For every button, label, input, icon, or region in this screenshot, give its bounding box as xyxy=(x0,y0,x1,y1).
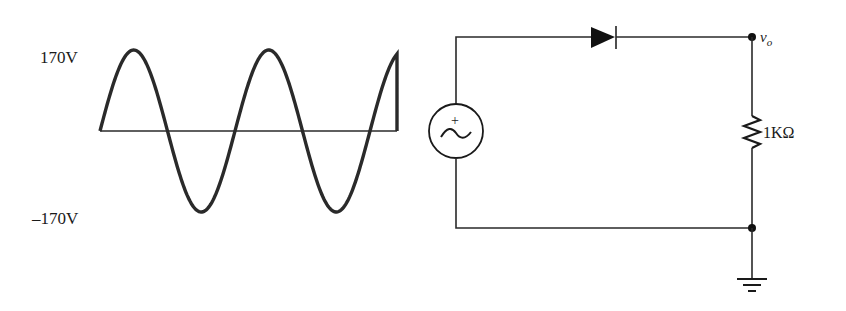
wire-source-to-ground-node xyxy=(456,158,752,228)
resistor-zigzag-icon xyxy=(744,116,760,148)
negative-peak-label: –170V xyxy=(31,209,79,228)
waveform-panel: 170V –170V xyxy=(31,48,397,228)
circuit-panel: vo 1KΩ + xyxy=(429,26,795,291)
figure-canvas: 170V –170V vo 1KΩ + xyxy=(0,0,846,311)
output-node-label: vo xyxy=(760,29,773,48)
positive-peak-label: 170V xyxy=(40,48,79,67)
diode xyxy=(591,26,616,49)
diode-triangle-icon xyxy=(591,27,615,48)
wire-source-to-diode xyxy=(456,37,591,104)
ac-source-plus-sign: + xyxy=(451,113,459,128)
ground-icon xyxy=(737,228,767,291)
resistor-label: 1KΩ xyxy=(763,124,795,141)
ac-source: + xyxy=(429,104,483,158)
